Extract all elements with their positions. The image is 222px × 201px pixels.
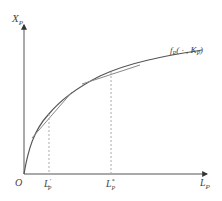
y-axis-label: XP xyxy=(11,12,24,27)
x-axis-label: LP xyxy=(199,177,211,191)
production-curve xyxy=(24,50,202,174)
curve-label: fP( · , KP) xyxy=(170,45,203,56)
production-function-diagram: XP LP O L'P L*P fP( · , KP) xyxy=(0,0,222,201)
marker-label-2: L*P xyxy=(105,178,116,191)
marker-label-1: L'P xyxy=(43,178,52,191)
origin-label: O xyxy=(15,177,22,188)
tangent-line-1 xyxy=(32,92,72,138)
